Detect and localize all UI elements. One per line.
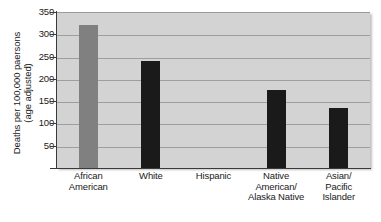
- x-axis-category-line: White: [120, 171, 183, 182]
- x-axis-category-label: Hispanic: [182, 171, 245, 182]
- bar: [329, 108, 348, 170]
- x-axis-category-line: Islander: [307, 192, 370, 203]
- x-axis-category-line: African: [57, 171, 120, 182]
- x-axis-labels: AfricanAmericanWhiteHispanicNativeAmeric…: [57, 171, 370, 221]
- plot-area: [57, 12, 370, 168]
- bar: [267, 90, 286, 169]
- x-axis-category-label: NativeAmerican/Alaska Native: [245, 171, 308, 203]
- x-axis-category-label: AfricanAmerican: [57, 171, 120, 192]
- x-axis-category-line: Native: [245, 171, 308, 182]
- x-axis-line: [50, 168, 371, 169]
- bar: [141, 61, 160, 169]
- bars-layer: [57, 13, 370, 169]
- bar: [79, 25, 98, 169]
- x-axis-category-label: White: [120, 171, 183, 182]
- x-axis-category-line: American: [57, 182, 120, 193]
- x-axis-category-line: Hispanic: [182, 171, 245, 182]
- x-axis-category-line: Asian/: [307, 171, 370, 182]
- y-axis-line: [56, 11, 57, 169]
- x-axis-category-label: Asian/PacificIslander: [307, 171, 370, 203]
- bar-chart-figure: Deaths per 100,000 paersons (age adjuste…: [0, 0, 381, 222]
- x-axis-category-line: Alaska Native: [245, 192, 308, 203]
